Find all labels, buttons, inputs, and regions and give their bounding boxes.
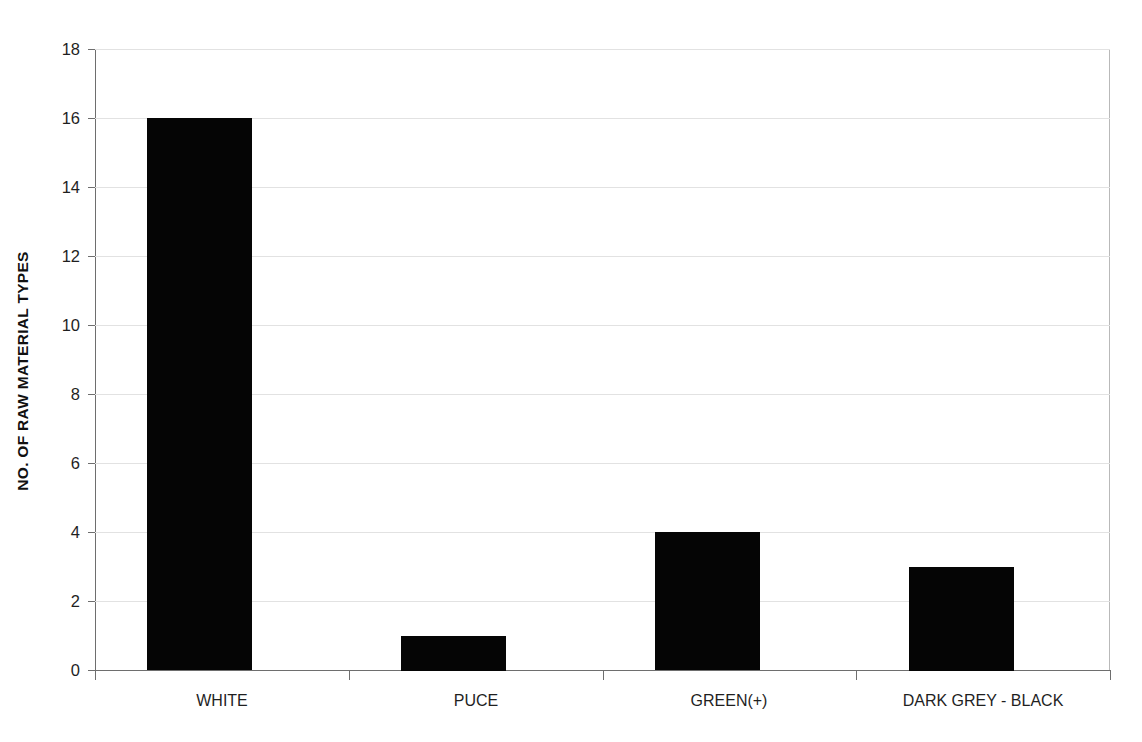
x-axis-category-label: DARK GREY - BLACK bbox=[903, 692, 1064, 710]
x-axis-category-label: PUCE bbox=[454, 692, 498, 710]
y-axis-tick-label: 12 bbox=[40, 247, 80, 266]
x-axis-tick bbox=[95, 671, 96, 680]
x-axis-category-label: GREEN(+) bbox=[691, 692, 768, 710]
y-axis-tick bbox=[88, 670, 95, 671]
y-axis-tick bbox=[88, 118, 95, 119]
y-axis-tick-label: 10 bbox=[40, 316, 80, 335]
y-axis-tick-label: 4 bbox=[40, 523, 80, 542]
bar bbox=[909, 567, 1014, 671]
y-axis-tick-label: 2 bbox=[40, 592, 80, 611]
y-axis-line bbox=[95, 49, 96, 671]
x-axis-tick bbox=[603, 671, 604, 680]
bar bbox=[655, 532, 760, 670]
y-axis-tick-label: 0 bbox=[40, 661, 80, 680]
y-axis-tick bbox=[88, 325, 95, 326]
y-axis-tick bbox=[88, 463, 95, 464]
y-axis-tick-label: 18 bbox=[40, 40, 80, 59]
x-axis-tick bbox=[349, 671, 350, 680]
bar bbox=[147, 118, 252, 670]
y-axis-tick bbox=[88, 394, 95, 395]
y-axis-tick bbox=[88, 601, 95, 602]
y-axis-tick-label: 14 bbox=[40, 178, 80, 197]
x-axis-category-label: WHITE bbox=[196, 692, 248, 710]
y-axis-tick bbox=[88, 49, 95, 50]
y-axis-tick bbox=[88, 187, 95, 188]
y-axis-tick-label: 6 bbox=[40, 454, 80, 473]
x-axis-tick bbox=[856, 671, 857, 680]
x-axis-tick bbox=[1110, 671, 1111, 680]
gridline bbox=[95, 49, 1110, 50]
bar bbox=[401, 636, 506, 671]
bar-chart: NO. OF RAW MATERIAL TYPES 02468101214161… bbox=[0, 0, 1142, 742]
y-axis-tick bbox=[88, 256, 95, 257]
y-axis-tick bbox=[88, 532, 95, 533]
y-axis-tick-label: 16 bbox=[40, 109, 80, 128]
y-axis-tick-label: 8 bbox=[40, 385, 80, 404]
